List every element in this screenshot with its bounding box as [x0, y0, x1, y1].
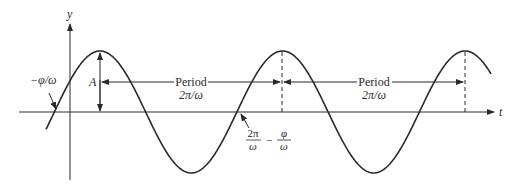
svg-text:2π: 2π: [247, 127, 259, 139]
period1-title: Period: [175, 75, 206, 89]
svg-text:−: −: [266, 134, 272, 146]
t-axis-label: t: [499, 105, 503, 119]
period1-value: 2π/ω: [179, 88, 203, 102]
svg-text:ω: ω: [280, 140, 288, 152]
amplitude-label: A: [88, 75, 97, 89]
period2-title: Period: [358, 75, 389, 89]
svg-text:ω: ω: [249, 140, 257, 152]
phase-shift-pointer: [49, 93, 56, 109]
zero-crossing-label: 2π ω − φ ω: [246, 127, 291, 152]
period2-value: 2π/ω: [362, 88, 386, 102]
zero-crossing-pointer: [241, 114, 249, 128]
sinusoid-diagram: t y A −φ/ω Period 2π/ω Period 2π/ω 2π ω …: [0, 0, 516, 187]
svg-text:φ: φ: [281, 127, 287, 139]
y-axis-label: y: [66, 7, 73, 21]
phase-shift-label: −φ/ω: [30, 73, 57, 87]
